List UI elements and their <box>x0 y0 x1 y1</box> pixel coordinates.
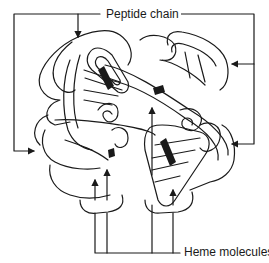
heme-molecules-label: Heme molecules <box>184 245 269 259</box>
peptide-chain-leaders <box>14 14 254 151</box>
heme-molecules-leaders <box>95 108 180 253</box>
peptide-chain-label: Peptide chain <box>104 7 181 21</box>
protein-illustration <box>0 0 269 263</box>
hemoglobin-diagram: Peptide chain Heme molecules <box>0 0 269 263</box>
heme-molecule-shapes <box>98 66 176 166</box>
